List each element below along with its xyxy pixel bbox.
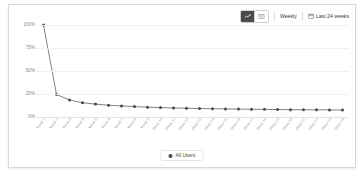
data-point[interactable] bbox=[94, 103, 97, 106]
legend-marker-all-users bbox=[168, 154, 172, 158]
retention-chart-card: Weekly Last 24 weeks 0%25%50%75%100% bbox=[8, 4, 356, 168]
x-axis-tick-label: Week 2 bbox=[49, 118, 59, 130]
x-axis-tick-label: Week 23 bbox=[321, 118, 333, 131]
data-point[interactable] bbox=[159, 106, 162, 109]
data-point[interactable] bbox=[302, 108, 305, 111]
data-point[interactable] bbox=[289, 108, 292, 111]
x-axis-tick-label: Week 20 bbox=[282, 118, 294, 131]
data-point[interactable] bbox=[263, 108, 266, 111]
table-icon bbox=[258, 13, 265, 21]
granularity-label: Weekly bbox=[280, 14, 297, 19]
data-point[interactable] bbox=[146, 106, 149, 109]
y-axis: 0%25%50%75%100% bbox=[9, 25, 35, 117]
x-axis-tick-label: Week 12 bbox=[178, 118, 190, 131]
x-axis-tick-label: Week 19 bbox=[269, 118, 281, 131]
data-point[interactable] bbox=[211, 107, 214, 110]
y-axis-tick-label: 25% bbox=[26, 92, 35, 97]
gridline bbox=[37, 48, 349, 49]
chart-plot-area: 0%25%50%75%100% Week 1Week 2Week 3Week 4… bbox=[9, 25, 355, 133]
data-point[interactable] bbox=[198, 107, 201, 110]
plot-grid bbox=[37, 25, 349, 117]
retention-chart-screenshot: Weekly Last 24 weeks 0%25%50%75%100% bbox=[0, 0, 364, 180]
y-axis-tick-label: 50% bbox=[26, 69, 35, 74]
x-axis-tick-label: Week 21 bbox=[295, 118, 307, 131]
gridline bbox=[37, 71, 349, 72]
x-axis-tick-label: Week 3 bbox=[62, 118, 72, 130]
toolbar-divider-2 bbox=[302, 12, 303, 21]
data-point[interactable] bbox=[107, 104, 110, 107]
x-axis-tick-label: Week 10 bbox=[152, 118, 164, 131]
x-axis-tick-label: Week 4 bbox=[75, 118, 85, 130]
view-toggle-group[interactable] bbox=[240, 10, 269, 23]
date-range-selector[interactable]: Last 24 weeks bbox=[308, 13, 349, 20]
data-point[interactable] bbox=[250, 108, 253, 111]
data-point[interactable] bbox=[133, 105, 136, 108]
data-point[interactable] bbox=[81, 101, 84, 104]
chart-toolbar: Weekly Last 24 weeks bbox=[240, 10, 349, 23]
data-point[interactable] bbox=[185, 107, 188, 110]
calendar-icon bbox=[308, 13, 314, 20]
data-point[interactable] bbox=[172, 106, 175, 109]
y-axis-tick-label: 0% bbox=[28, 115, 35, 120]
x-axis: Week 1Week 2Week 3Week 4Week 5Week 6Week… bbox=[37, 118, 349, 148]
data-point[interactable] bbox=[224, 107, 227, 110]
data-point[interactable] bbox=[315, 108, 318, 111]
y-axis-tick-label: 75% bbox=[26, 46, 35, 51]
x-axis-tick-label: Week 5 bbox=[88, 118, 98, 130]
gridline bbox=[37, 94, 349, 95]
x-axis-tick-label: Week 8 bbox=[127, 118, 137, 130]
x-axis-tick-label: Week 13 bbox=[191, 118, 203, 131]
granularity-selector[interactable]: Weekly bbox=[280, 14, 297, 19]
toolbar-divider bbox=[274, 12, 275, 21]
x-axis-tick-label: Week 11 bbox=[165, 118, 176, 131]
y-axis-tick-label: 100% bbox=[23, 23, 35, 28]
x-axis-tick-label: Week 6 bbox=[101, 118, 111, 130]
x-axis-tick-label: Week 15 bbox=[217, 118, 229, 131]
line-chart-view-button[interactable] bbox=[241, 11, 255, 22]
x-axis-tick-label: Week 14 bbox=[204, 118, 216, 131]
table-view-button[interactable] bbox=[255, 11, 268, 22]
x-axis-tick-label: Week 7 bbox=[114, 118, 124, 130]
data-point[interactable] bbox=[237, 108, 240, 111]
series-line bbox=[44, 25, 343, 110]
x-axis-tick-label: Week 9 bbox=[140, 118, 150, 130]
date-range-label: Last 24 weeks bbox=[316, 14, 349, 19]
gridline bbox=[37, 25, 349, 26]
legend-label-all-users: All Users bbox=[175, 153, 195, 158]
data-point[interactable] bbox=[120, 104, 123, 107]
x-axis-tick-label: Week 1 bbox=[36, 118, 46, 130]
x-axis-tick-label: Week 16 bbox=[230, 118, 242, 131]
line-chart-icon bbox=[244, 13, 251, 21]
data-point[interactable] bbox=[341, 109, 344, 112]
x-axis-tick-label: Week 24 bbox=[334, 118, 346, 131]
chart-legend[interactable]: All Users bbox=[160, 150, 203, 161]
x-axis-tick-label: Week 22 bbox=[308, 118, 320, 131]
data-point[interactable] bbox=[328, 108, 331, 111]
x-axis-tick-label: Week 17 bbox=[243, 118, 255, 131]
data-point[interactable] bbox=[276, 108, 279, 111]
x-axis-tick-label: Week 18 bbox=[256, 118, 268, 131]
data-point[interactable] bbox=[68, 98, 71, 101]
